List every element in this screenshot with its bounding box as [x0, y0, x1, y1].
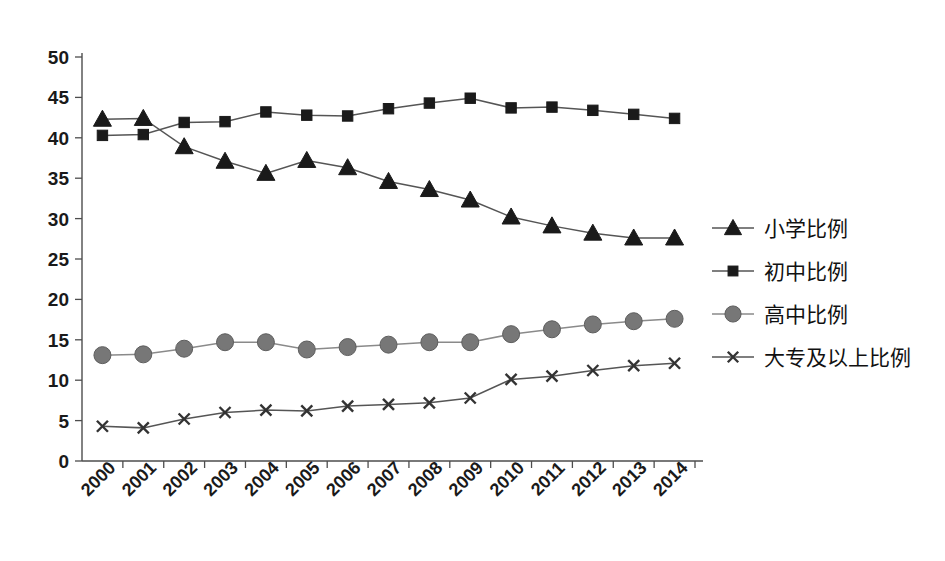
marker-square [547, 102, 557, 112]
x-tick-label: 2006 [322, 458, 364, 500]
marker-circle [217, 334, 234, 351]
marker-square [629, 109, 639, 119]
marker-circle [421, 334, 438, 351]
legend-label: 高中比例 [764, 303, 848, 326]
x-tick-label: 2002 [159, 458, 201, 500]
marker-circle [339, 339, 356, 356]
x-tick-label: 2004 [240, 458, 282, 500]
x-tick-label: 2000 [77, 458, 119, 500]
line-chart: 05101520253035404550 2000200120022003200… [0, 0, 945, 561]
y-tick-label: 40 [48, 128, 69, 149]
chart-container: 05101520253035404550 2000200120022003200… [0, 0, 945, 561]
x-tick-label: 2001 [118, 458, 160, 500]
marker-circle [298, 341, 315, 358]
y-tick-label: 35 [48, 168, 70, 189]
marker-square [302, 110, 312, 120]
marker-square [588, 105, 598, 115]
marker-triangle [93, 110, 111, 126]
marker-square [465, 93, 475, 103]
x-axis: 2000200120022003200420052006200720082009… [77, 458, 703, 500]
legend-label: 大专及以上比例 [764, 346, 911, 369]
marker-square [342, 111, 352, 121]
marker-circle [543, 321, 560, 338]
marker-circle [584, 316, 601, 333]
y-tick-label: 20 [48, 289, 69, 310]
x-tick-label: 2009 [445, 458, 487, 500]
marker-triangle [257, 164, 275, 180]
marker-triangle [380, 172, 398, 188]
x-tick-label: 2011 [527, 458, 569, 500]
marker-square [506, 103, 516, 113]
x-tick-label: 2014 [649, 458, 691, 500]
x-tick-label: 2010 [486, 458, 528, 500]
marker-triangle [134, 109, 152, 125]
y-tick-label: 15 [48, 330, 70, 351]
marker-triangle [298, 151, 316, 167]
legend-item-2[interactable]: 初中比例 [712, 260, 848, 283]
marker-square [383, 104, 393, 114]
legend-label: 小学比例 [764, 217, 848, 240]
marker-triangle [216, 152, 234, 168]
marker-circle [462, 334, 479, 351]
legend-item-3[interactable]: 高中比例 [712, 303, 848, 326]
chart-legend: 小学比例初中比例高中比例大专及以上比例 [712, 217, 911, 369]
legend-label: 初中比例 [764, 260, 848, 283]
marker-square [728, 266, 738, 276]
y-tick-label: 10 [48, 370, 69, 391]
marker-triangle [724, 219, 741, 234]
x-tick-label: 2008 [404, 458, 446, 500]
marker-triangle [175, 138, 193, 154]
marker-circle [94, 347, 111, 364]
marker-circle [503, 326, 520, 343]
legend-item-4[interactable]: 大专及以上比例 [712, 346, 911, 369]
marker-square [97, 130, 107, 140]
series-3 [94, 310, 683, 363]
marker-square [220, 116, 230, 126]
marker-square [179, 117, 189, 127]
marker-circle [380, 336, 397, 353]
marker-circle [725, 306, 741, 322]
x-tick-label: 2003 [200, 458, 242, 500]
marker-circle [666, 310, 683, 327]
y-tick-label: 0 [58, 451, 69, 472]
marker-triangle [666, 229, 684, 245]
series-4 [97, 358, 680, 434]
y-tick-label: 50 [48, 47, 69, 68]
marker-triangle [502, 208, 520, 224]
x-tick-label: 2012 [567, 458, 609, 500]
legend-item-1[interactable]: 小学比例 [712, 217, 848, 240]
marker-circle [176, 340, 193, 357]
series-1 [93, 109, 683, 245]
marker-circle [257, 334, 274, 351]
marker-circle [135, 346, 152, 363]
y-tick-label: 25 [48, 249, 70, 270]
marker-square [669, 113, 679, 123]
x-tick-label: 2005 [281, 458, 323, 500]
y-tick-label: 5 [58, 411, 69, 432]
series-layer [93, 93, 683, 433]
marker-square [261, 107, 271, 117]
y-axis: 05101520253035404550 [48, 47, 82, 472]
marker-square [138, 129, 148, 139]
x-tick-label: 2007 [363, 458, 405, 500]
marker-circle [625, 313, 642, 330]
y-tick-label: 45 [48, 87, 70, 108]
y-tick-label: 30 [48, 209, 69, 230]
marker-square [424, 98, 434, 108]
series-2 [97, 93, 680, 141]
x-tick-label: 2013 [608, 458, 650, 500]
